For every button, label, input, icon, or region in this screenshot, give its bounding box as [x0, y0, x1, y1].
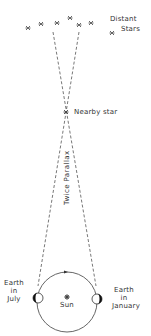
earth-january-label-line3: January — [106, 302, 146, 310]
earth-january-icon — [92, 294, 102, 304]
earth-july-label-line1: Earth — [3, 279, 25, 287]
sun-icon — [64, 294, 70, 300]
earth-july-icon — [33, 293, 43, 303]
earth-july-label-line3: July — [3, 295, 25, 303]
earth-january-label-line1: Earth — [104, 286, 144, 294]
earth-july-label-line2: in — [3, 287, 25, 295]
distant-star-icons — [26, 16, 115, 35]
nearby-star-label: Nearby star — [74, 108, 117, 116]
sun-label: Sun — [57, 301, 77, 309]
twice-parallax-label: Twice Parallax — [63, 151, 71, 205]
orbit-direction-arrow-icon — [64, 271, 68, 274]
distant-stars-label-line2: Stars — [121, 25, 140, 33]
earth-january-label-line2: in — [104, 294, 144, 302]
distant-stars-label-line1: Distant — [110, 15, 137, 23]
